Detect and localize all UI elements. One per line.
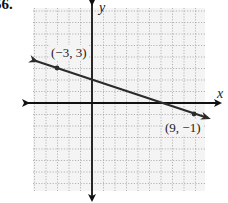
point-label-9-neg1: (9, −1) <box>165 120 201 135</box>
coordinate-graph: y x (−3, 3) (9, −1) <box>0 0 228 203</box>
y-axis-label: y <box>97 0 106 15</box>
point-neg3-3 <box>55 66 60 71</box>
x-axis-label: x <box>216 86 224 101</box>
point-9-neg1 <box>192 112 197 117</box>
point-label-neg3-3: (−3, 3) <box>51 45 87 60</box>
grid-background <box>33 8 205 191</box>
